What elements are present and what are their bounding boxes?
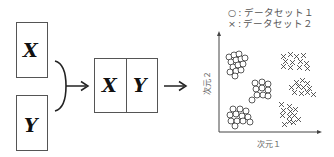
legend-item-dataset1: ○:データセット１ — [228, 7, 314, 18]
legend-label-dataset1: データセット１ — [244, 7, 314, 18]
x-axis-label: 次元１ — [257, 138, 281, 149]
cross-marker-icon: × — [228, 18, 236, 29]
merge-arrow-icon — [66, 82, 88, 91]
legend-separator: : — [238, 18, 241, 29]
legend-item-dataset2: ×:データセット２ — [228, 18, 314, 29]
y-axis-arrow-icon — [217, 31, 221, 36]
dataset1-markers — [226, 51, 271, 129]
output-arrow-icon — [164, 82, 186, 91]
x-axis-arrow-icon — [317, 130, 322, 134]
dataset2-markers — [279, 52, 316, 127]
merge-bracket-icon — [55, 61, 66, 111]
legend-separator: : — [238, 7, 241, 18]
legend-label-dataset2: データセット２ — [243, 18, 313, 29]
legend: ○:データセット１ ×:データセット２ — [228, 7, 314, 29]
circle-marker-icon: ○ — [228, 7, 236, 18]
y-axis-label: 次元２ — [201, 71, 212, 95]
